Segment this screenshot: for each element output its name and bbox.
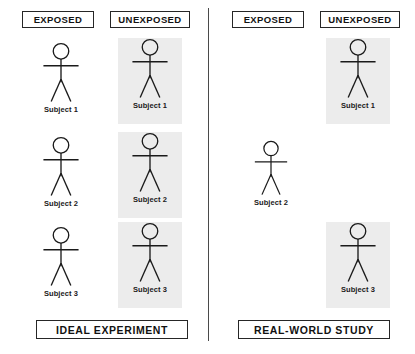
stick-figure-icon <box>124 38 176 100</box>
subject-cell: Subject 3 <box>30 226 92 306</box>
subject-cell: Subject 1 <box>118 38 182 124</box>
column-header-ideal-experiment-unexposed: UNEXPOSED <box>110 11 190 28</box>
panel-divider <box>208 8 209 341</box>
stick-figure-icon <box>247 140 295 197</box>
stick-figure-icon <box>124 132 176 194</box>
subject-label: Subject 3 <box>133 285 167 294</box>
stick-figure-wrapper <box>124 132 176 194</box>
subject-cell: Subject 3 <box>118 222 182 308</box>
subject-label: Subject 1 <box>341 101 375 110</box>
subject-cell: Subject 2 <box>243 140 299 214</box>
subject-cell: Subject 1 <box>30 42 92 122</box>
stick-figure-wrapper <box>332 222 384 284</box>
stick-figure-wrapper <box>247 140 295 197</box>
subject-cell: Subject 2 <box>30 136 92 216</box>
stick-figure-wrapper <box>35 136 87 198</box>
column-header-real-world-study-unexposed: UNEXPOSED <box>320 11 400 28</box>
subject-label: Subject 2 <box>254 198 288 207</box>
stick-figure-icon <box>35 226 87 288</box>
stick-figure-icon <box>35 136 87 198</box>
subject-label: Subject 2 <box>133 195 167 204</box>
diagram-canvas: IDEAL EXPERIMENTEXPOSEDSubject 1Subject … <box>0 0 415 354</box>
subject-cell: Subject 1 <box>326 38 390 124</box>
panel-caption-real-world-study: REAL-WORLD STUDY <box>238 320 390 339</box>
stick-figure-wrapper <box>35 226 87 288</box>
stick-figure-icon <box>35 42 87 104</box>
subject-label: Subject 3 <box>341 285 375 294</box>
column-header-ideal-experiment-exposed: EXPOSED <box>22 11 94 28</box>
subject-cell: Subject 3 <box>326 222 390 308</box>
stick-figure-wrapper <box>124 38 176 100</box>
subject-cell: Subject 2 <box>118 132 182 218</box>
stick-figure-wrapper <box>124 222 176 284</box>
subject-label: Subject 1 <box>44 105 78 114</box>
panel-caption-ideal-experiment: IDEAL EXPERIMENT <box>36 320 188 339</box>
subject-label: Subject 1 <box>133 101 167 110</box>
stick-figure-icon <box>332 38 384 100</box>
column-header-real-world-study-exposed: EXPOSED <box>232 11 304 28</box>
stick-figure-wrapper <box>35 42 87 104</box>
subject-label: Subject 2 <box>44 199 78 208</box>
subject-label: Subject 3 <box>44 289 78 298</box>
stick-figure-icon <box>124 222 176 284</box>
stick-figure-icon <box>332 222 384 284</box>
stick-figure-wrapper <box>332 38 384 100</box>
